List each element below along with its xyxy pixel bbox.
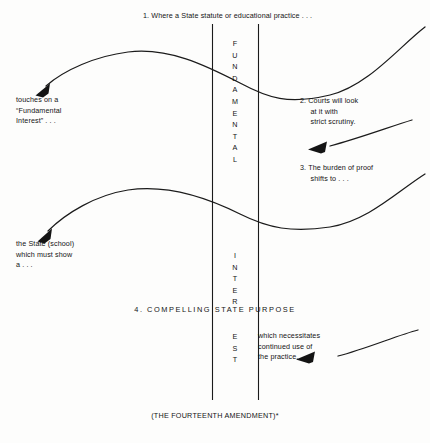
arrow-necessitates (338, 330, 418, 356)
flow-diagram: 1. Where a State statute or educational … (0, 0, 430, 443)
caption-step-1: 1. Where a State statute or educational … (143, 11, 312, 22)
vertical-label-est: EST (225, 331, 245, 366)
vertical-letter: N (225, 262, 245, 274)
diagram-vector-layer (0, 0, 430, 443)
caption-fourteenth-amendment: (THE FOURTEENTH AMENDMENT)* (0, 411, 430, 422)
arrow-step2-arrowhead (308, 142, 327, 154)
vertical-letter: T (225, 131, 245, 143)
annotation-step-3-burden-of-proof: 3. The burden of proof shifts to . . . (300, 163, 373, 184)
vertical-label-fundamental: FUNDAMENTAL (225, 38, 245, 166)
vertical-letter: U (225, 50, 245, 62)
vertical-letter: N (225, 61, 245, 73)
vertical-letter: E (225, 331, 245, 343)
vertical-letter: A (225, 142, 245, 154)
vertical-letter: S (225, 343, 245, 355)
vertical-letter: A (225, 84, 245, 96)
vertical-letter: E (225, 108, 245, 120)
vertical-letter: F (225, 38, 245, 50)
vertical-letter: M (225, 96, 245, 108)
vertical-letter: R (225, 296, 245, 308)
annotation-necessitates-continued-use: which necessitates continued use of the … (258, 331, 320, 363)
vertical-letter: D (225, 73, 245, 85)
vertical-letter: T (225, 354, 245, 366)
vertical-letter: E (225, 285, 245, 297)
vertical-label-inter: INTER (225, 250, 245, 308)
vertical-letter: T (225, 273, 245, 285)
vertical-letter: L (225, 154, 245, 166)
annotation-touches-on-fundamental-interest: touches on a “Fundamental Interest” . . … (16, 95, 62, 127)
annotation-step-2-strict-scrutiny: 2. Courts will look at it with strict sc… (300, 96, 358, 128)
vertical-letter: I (225, 250, 245, 262)
label-step-4-compelling-state-purpose: 4. COMPELLING STATE PURPOSE (0, 305, 430, 316)
annotation-state-school-must-show: the State (school) which must show a . .… (16, 239, 74, 271)
vertical-letter: N (225, 119, 245, 131)
